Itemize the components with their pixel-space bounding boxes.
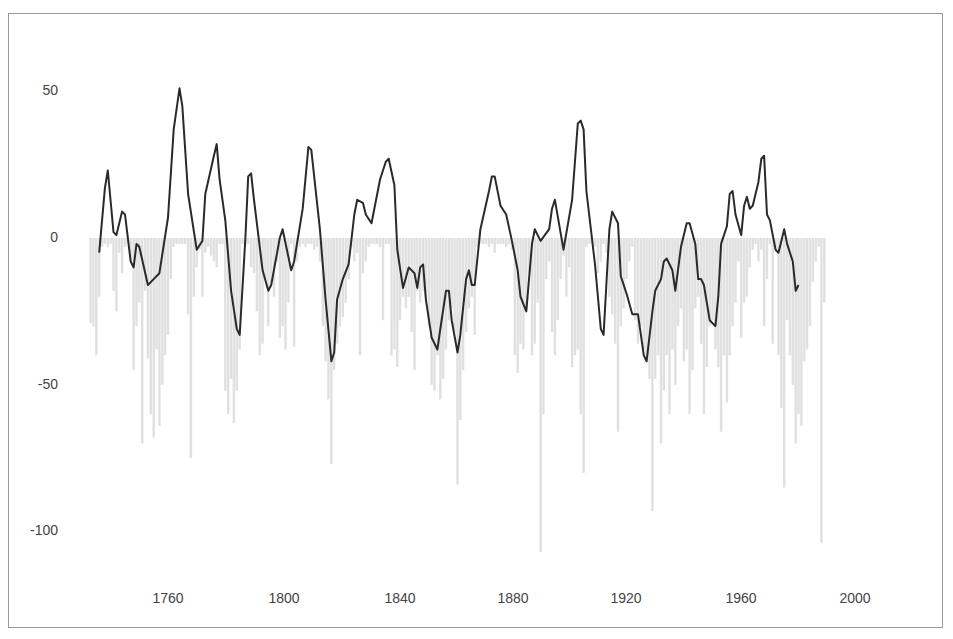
bar bbox=[714, 238, 716, 350]
y-tick-0: 0 bbox=[8, 229, 58, 245]
bar bbox=[164, 238, 166, 355]
bar bbox=[711, 238, 713, 320]
bar bbox=[218, 238, 220, 244]
bar bbox=[637, 238, 639, 344]
x-tick-1880: 1880 bbox=[483, 590, 543, 606]
bar bbox=[746, 238, 748, 297]
bar bbox=[410, 238, 412, 332]
bar bbox=[313, 238, 315, 250]
bar bbox=[393, 238, 395, 350]
bar bbox=[482, 238, 484, 244]
bar bbox=[559, 238, 561, 279]
bar bbox=[780, 238, 782, 408]
bar bbox=[743, 238, 745, 303]
bar bbox=[643, 238, 645, 350]
bar bbox=[757, 238, 759, 262]
bar bbox=[574, 238, 576, 355]
bar bbox=[302, 238, 304, 244]
x-tick-1920: 1920 bbox=[596, 590, 656, 606]
bar bbox=[474, 238, 476, 335]
bar bbox=[485, 238, 487, 244]
bar bbox=[362, 238, 364, 273]
bar bbox=[373, 238, 375, 244]
bar bbox=[809, 238, 811, 326]
bar bbox=[233, 238, 235, 423]
bar bbox=[451, 238, 453, 308]
bar bbox=[766, 238, 768, 279]
bar bbox=[307, 238, 309, 244]
bar bbox=[173, 238, 175, 247]
bar bbox=[141, 238, 143, 444]
x-tick-1760: 1760 bbox=[138, 590, 198, 606]
bar bbox=[210, 238, 212, 256]
bar bbox=[247, 238, 249, 244]
bar bbox=[230, 238, 232, 379]
bar bbox=[763, 238, 765, 326]
bar bbox=[382, 238, 384, 320]
bar bbox=[817, 238, 819, 247]
bar bbox=[631, 238, 633, 247]
bar bbox=[508, 238, 510, 244]
bar bbox=[89, 238, 91, 323]
x-tick-1800: 1800 bbox=[254, 590, 314, 606]
bar bbox=[353, 238, 355, 262]
bar bbox=[568, 238, 570, 267]
bar bbox=[431, 238, 433, 385]
bar bbox=[551, 238, 553, 332]
bar bbox=[731, 238, 733, 326]
x-tick-1840: 1840 bbox=[370, 590, 430, 606]
bar bbox=[413, 238, 415, 370]
bar bbox=[674, 238, 676, 385]
bar bbox=[760, 238, 762, 250]
bar bbox=[522, 238, 524, 350]
bar bbox=[224, 238, 226, 391]
bar bbox=[752, 238, 754, 250]
bar bbox=[580, 238, 582, 414]
bar bbox=[236, 238, 238, 391]
bar bbox=[502, 238, 504, 244]
bar bbox=[628, 238, 630, 262]
bar bbox=[734, 238, 736, 303]
bar bbox=[121, 238, 123, 273]
bar bbox=[823, 238, 825, 303]
bar bbox=[264, 238, 266, 279]
bar bbox=[645, 238, 647, 355]
bar bbox=[370, 238, 372, 244]
bar bbox=[648, 238, 650, 379]
bar bbox=[769, 238, 771, 244]
bar bbox=[201, 238, 203, 297]
bar bbox=[385, 238, 387, 244]
bar bbox=[488, 238, 490, 247]
bar bbox=[388, 238, 390, 244]
bar bbox=[686, 238, 688, 350]
bar bbox=[600, 238, 602, 262]
bar bbox=[496, 238, 498, 244]
bar bbox=[390, 238, 392, 355]
bar bbox=[207, 238, 209, 247]
plot-area bbox=[0, 0, 953, 639]
bar bbox=[542, 238, 544, 414]
bar bbox=[691, 238, 693, 370]
bar bbox=[150, 238, 152, 414]
bar bbox=[178, 238, 180, 244]
bar bbox=[545, 238, 547, 279]
bar bbox=[261, 238, 263, 344]
bar bbox=[267, 238, 269, 326]
bar bbox=[104, 238, 106, 244]
bar bbox=[299, 238, 301, 247]
y-tick-minus-50: -50 bbox=[8, 376, 58, 392]
bar bbox=[683, 238, 685, 361]
bar bbox=[812, 238, 814, 282]
bar bbox=[339, 238, 341, 326]
bar bbox=[565, 238, 567, 297]
bar bbox=[588, 238, 590, 244]
bar bbox=[820, 238, 822, 543]
bar bbox=[602, 238, 604, 244]
bar bbox=[651, 238, 653, 511]
bar bbox=[815, 238, 817, 262]
bar bbox=[723, 238, 725, 355]
bar bbox=[585, 238, 587, 247]
bar bbox=[304, 238, 306, 247]
bar bbox=[250, 238, 252, 267]
bar bbox=[614, 238, 616, 344]
